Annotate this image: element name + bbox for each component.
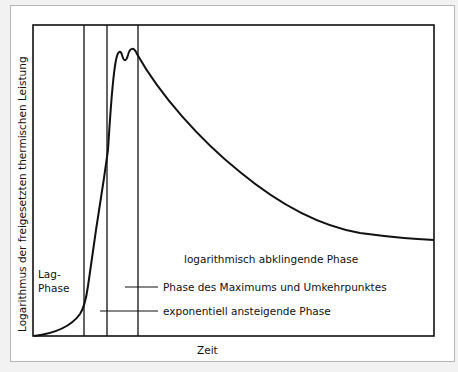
y-axis-label: Logarithmus der freigesetzten thermische… (16, 56, 28, 332)
maximum-phase-label: Phase des Maximums und Umkehrpunktes (163, 281, 387, 293)
decay-phase-label: logarithmisch abklingende Phase (184, 253, 358, 265)
exponential-phase-label: exponentiell ansteigende Phase (163, 305, 331, 317)
lag-phase-label-line1: Lag- (38, 268, 61, 280)
growth-phase-diagram: Logarithmus der freigesetzten thermische… (0, 0, 458, 372)
x-axis-label: Zeit (197, 344, 218, 356)
lag-phase-label-line2: Phase (38, 282, 69, 294)
